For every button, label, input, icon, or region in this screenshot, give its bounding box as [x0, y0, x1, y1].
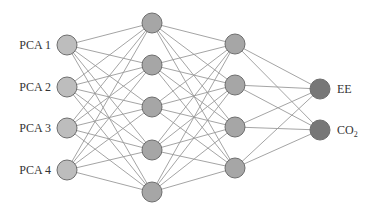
connection-edge	[152, 85, 235, 192]
neural-network-diagram: PCA 1PCA 2PCA 3PCA 4EECO2	[0, 0, 375, 216]
connection-edge	[67, 87, 152, 192]
hidden-1-node	[142, 140, 162, 160]
neurons	[57, 13, 330, 202]
connection-edge	[67, 23, 152, 45]
input-node	[57, 118, 77, 138]
node-labels: PCA 1PCA 2PCA 3PCA 4EECO2	[19, 38, 357, 177]
output-label: EE	[337, 82, 352, 96]
connections	[67, 23, 320, 192]
hidden-2-node	[225, 34, 245, 54]
hidden-1-node	[142, 55, 162, 75]
connection-edge	[152, 85, 235, 107]
input-node	[57, 160, 77, 180]
output-node	[310, 120, 330, 140]
hidden-1-node	[142, 182, 162, 202]
output-label: CO2	[337, 123, 358, 139]
connection-edge	[67, 23, 152, 87]
input-label: PCA 4	[19, 163, 51, 177]
hidden-2-node	[225, 75, 245, 95]
connection-edge	[235, 85, 320, 89]
connection-edge	[235, 89, 320, 168]
output-node	[310, 79, 330, 99]
connection-edge	[67, 170, 152, 192]
connection-edge	[152, 23, 235, 44]
hidden-1-node	[142, 97, 162, 117]
connection-edge	[235, 44, 320, 89]
input-label: PCA 3	[19, 121, 51, 135]
input-node	[57, 35, 77, 55]
connection-edge	[235, 85, 320, 130]
connection-edge	[67, 23, 152, 128]
connection-edge	[152, 127, 235, 192]
connection-edge	[235, 130, 320, 168]
input-label: PCA 1	[19, 38, 51, 52]
connection-edge	[152, 168, 235, 192]
input-label: PCA 2	[19, 80, 51, 94]
input-node	[57, 77, 77, 97]
connection-edge	[152, 44, 235, 65]
hidden-2-node	[225, 158, 245, 178]
hidden-1-node	[142, 13, 162, 33]
connection-edge	[235, 89, 320, 127]
hidden-2-node	[225, 117, 245, 137]
connection-edge	[67, 65, 152, 170]
